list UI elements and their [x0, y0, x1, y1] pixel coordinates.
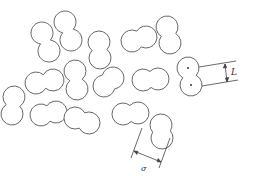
- dumbbell-particle: [30, 101, 67, 126]
- extension-line-bottom: [202, 80, 238, 86]
- center-dot: [190, 84, 192, 86]
- bond-length-label: L: [230, 67, 237, 77]
- dumbbell-particle: [112, 102, 149, 125]
- arrowhead-top: [223, 64, 226, 68]
- dumbbell-particle: [1, 86, 25, 125]
- center-dot: [187, 67, 189, 69]
- dumbbell-particle: [64, 107, 100, 134]
- dumbbell-particle: [177, 57, 202, 96]
- dumbbell-particle: [25, 69, 64, 94]
- dumbbell-particle: [93, 67, 124, 97]
- arrowhead-right: [157, 159, 161, 162]
- particle-group: [1, 11, 202, 149]
- dimension-line-sigma: [134, 151, 161, 162]
- dumbbell-packing-diagram: L σ: [0, 0, 256, 178]
- dumbbell-particle: [64, 60, 88, 100]
- dumbbell-particle: [156, 16, 181, 54]
- dumbbell-particle: [150, 114, 173, 149]
- arrowhead-left: [134, 151, 138, 154]
- dumbbell-particle: [132, 68, 169, 91]
- diameter-label: σ: [141, 164, 147, 173]
- dumbbell-particle: [121, 26, 157, 52]
- dumbbell-particle: [88, 31, 111, 69]
